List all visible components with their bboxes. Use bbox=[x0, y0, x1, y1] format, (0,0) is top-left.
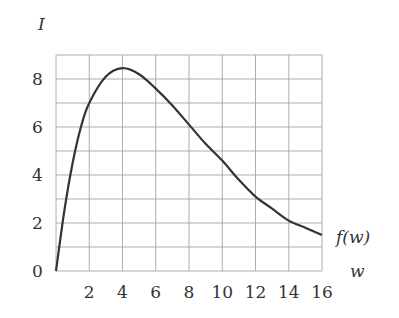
x-tick-label: 2 bbox=[84, 282, 95, 302]
y-tick-label: 0 bbox=[32, 261, 43, 281]
y-axis-label: I bbox=[37, 14, 45, 34]
x-tick-label: 12 bbox=[245, 282, 267, 302]
y-tick-label: 8 bbox=[32, 69, 43, 89]
x-tick-label: 10 bbox=[211, 282, 233, 302]
curve-label: f(w) bbox=[334, 227, 370, 247]
y-tick-label: 6 bbox=[32, 117, 43, 137]
y-tick-label: 2 bbox=[32, 213, 43, 233]
x-tick-label: 4 bbox=[117, 282, 128, 302]
x-tick-labels: 246810121416 bbox=[84, 282, 333, 302]
y-tick-label: 4 bbox=[32, 165, 43, 185]
grid bbox=[56, 55, 322, 271]
y-tick-labels: 02468 bbox=[32, 69, 43, 281]
x-tick-label: 14 bbox=[278, 282, 300, 302]
x-tick-label: 6 bbox=[150, 282, 161, 302]
x-tick-label: 16 bbox=[311, 282, 333, 302]
line-chart: I w f(w) 02468 246810121416 bbox=[0, 0, 399, 318]
x-tick-label: 8 bbox=[184, 282, 195, 302]
x-axis-label: w bbox=[350, 261, 365, 281]
